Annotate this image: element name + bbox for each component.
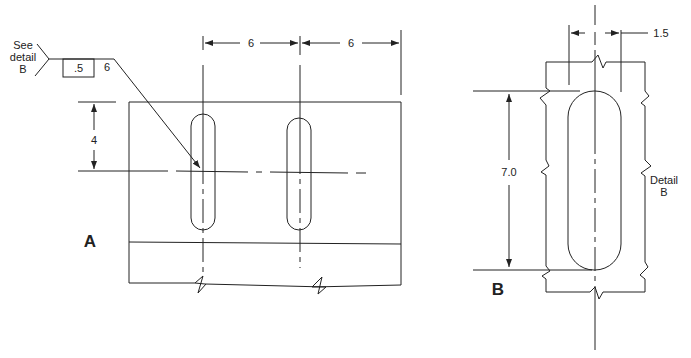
view-b-label: B (488, 284, 508, 296)
drawing-canvas (0, 0, 691, 358)
detail-caption-line: B (646, 186, 682, 198)
dim-vertical: 4 (86, 134, 102, 146)
callout-note-line: detail (8, 51, 38, 63)
dim-spacing-2: 6 (342, 37, 360, 49)
slot-2 (287, 118, 311, 230)
detail-caption-line: Detail (646, 174, 682, 186)
callout-note: See detail B (8, 39, 38, 75)
part-outline (129, 102, 401, 294)
section-line (129, 242, 401, 244)
callout-note-line: See (8, 39, 38, 51)
callout-note-line: B (8, 63, 38, 75)
dim-width: 1.5 (650, 27, 672, 39)
callout-box-value: .5 (63, 62, 94, 74)
callout-length-value: 6 (100, 61, 114, 73)
view-a-label: A (80, 236, 100, 248)
detail-caption: Detail B (646, 174, 682, 198)
dim-spacing-1: 6 (243, 37, 259, 49)
dim-length: 7.0 (496, 166, 522, 178)
